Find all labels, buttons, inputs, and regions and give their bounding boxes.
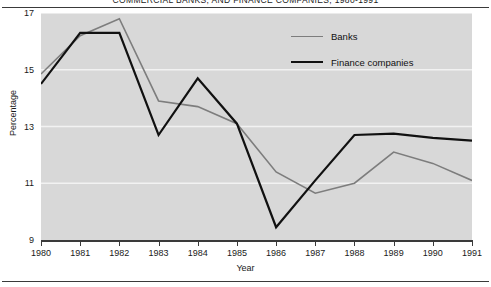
x-tick (198, 240, 199, 246)
x-tick (119, 240, 120, 246)
legend-item[interactable]: Finance companies (291, 52, 451, 72)
x-tick (237, 240, 238, 246)
y-tick-label: 13 (8, 122, 34, 132)
x-tick-label: 1987 (295, 248, 335, 258)
chart-legend: BanksFinance companies (291, 26, 451, 78)
x-tick (394, 240, 395, 246)
x-tick (276, 240, 277, 246)
y-tick-label: 15 (8, 65, 34, 75)
chart-figure: COMMERCIAL BANKS, AND FINANCE COMPANIES,… (0, 0, 491, 287)
y-tick-label: 9 (8, 235, 34, 245)
x-tick-label: 1985 (217, 248, 257, 258)
x-tick (354, 240, 355, 246)
title-divider (2, 7, 489, 8)
x-tick (80, 240, 81, 246)
x-tick-label: 1984 (178, 248, 218, 258)
x-tick-label: 1980 (21, 248, 61, 258)
y-tick-label: 11 (8, 178, 34, 188)
x-tick-label: 1990 (413, 248, 453, 258)
legend-label: Banks (331, 31, 357, 42)
x-tick-label: 1991 (452, 248, 491, 258)
legend-line-swatch (291, 61, 323, 63)
legend-line-swatch (291, 36, 323, 37)
chart-title: COMMERCIAL BANKS, AND FINANCE COMPANIES,… (0, 0, 491, 6)
legend-label: Finance companies (331, 57, 413, 68)
y-tick-label: 17 (8, 8, 34, 18)
legend-item[interactable]: Banks (291, 26, 451, 46)
y-axis-title: Percentage (8, 78, 18, 148)
x-tick (472, 240, 473, 246)
x-tick-label: 1982 (99, 248, 139, 258)
x-tick (41, 240, 42, 246)
x-tick-label: 1989 (374, 248, 414, 258)
x-tick (159, 240, 160, 246)
x-axis-title: Year (0, 263, 491, 273)
bottom-divider (2, 281, 489, 282)
x-tick-label: 1986 (256, 248, 296, 258)
x-tick-label: 1983 (139, 248, 179, 258)
x-tick-label: 1981 (60, 248, 100, 258)
x-tick (315, 240, 316, 246)
x-tick (433, 240, 434, 246)
x-tick-label: 1988 (334, 248, 374, 258)
x-axis-line (41, 240, 472, 242)
